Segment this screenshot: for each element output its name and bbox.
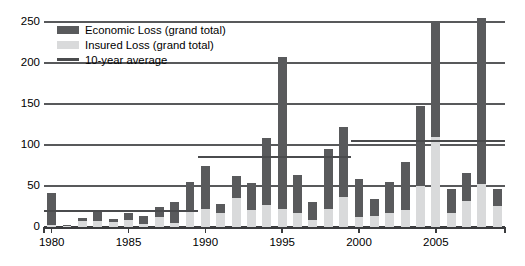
average-segment-2000-2009: [351, 140, 505, 142]
bar-insured-2002: [385, 213, 394, 227]
bar-insured-1993: [247, 210, 256, 227]
legend-swatch-insured-icon: [57, 41, 79, 49]
bar-group-2005: [431, 22, 440, 227]
legend-label-economic: Economic Loss (grand total): [85, 24, 226, 36]
x-tick-label-2000: 2000: [346, 236, 372, 248]
bar-group-2009: [493, 22, 502, 227]
x-tick-label-1980: 1980: [39, 236, 65, 248]
x-tick-label-2005: 2005: [423, 236, 449, 248]
average-segment-1980-1989: [44, 210, 198, 212]
bar-group-1995: [278, 22, 287, 227]
bar-group-2000: [355, 22, 364, 227]
x-tick-label-1985: 1985: [116, 236, 142, 248]
bar-insured-1991: [216, 213, 225, 227]
legend: Economic Loss (grand total) Insured Loss…: [57, 23, 247, 68]
bar-insured-2004: [416, 186, 425, 227]
x-axis-labels: 198019851990199520002005: [0, 236, 525, 256]
x-axis-start-cap: [43, 227, 45, 233]
bar-group-1980: [47, 22, 56, 227]
x-tick-mark-1990: [205, 227, 207, 233]
legend-item-economic-loss: Economic Loss (grand total): [57, 23, 247, 36]
x-tick-label-1990: 1990: [193, 236, 219, 248]
bar-insured-1990: [201, 209, 210, 227]
bar-insured-2007: [462, 201, 471, 227]
bar-insured-2009: [493, 206, 502, 227]
bar-insured-1994: [262, 205, 271, 227]
bar-group-2002: [385, 22, 394, 227]
legend-swatch-average-line-icon: [57, 58, 79, 61]
average-segment-1990-1999: [198, 156, 352, 158]
legend-item-insured-loss: Insured Loss (grand total): [57, 38, 247, 51]
loss-chart: 050100150200250 198019851990199520002005…: [0, 0, 525, 266]
y-axis-labels: 050100150200250: [0, 0, 40, 266]
bar-insured-1995: [278, 209, 287, 227]
bar-group-2006: [447, 22, 456, 227]
bar-insured-1999: [339, 197, 348, 227]
x-tick-mark-1995: [281, 227, 283, 233]
y-tick-label-0: 0: [34, 221, 40, 233]
x-tick-mark-2000: [358, 227, 360, 233]
x-axis-end-cap: [504, 227, 506, 233]
bar-insured-2008: [477, 184, 486, 227]
bar-group-2001: [370, 22, 379, 227]
bar-group-1997: [308, 22, 317, 227]
bar-insured-1996: [293, 213, 302, 227]
bar-group-2007: [462, 22, 471, 227]
x-tick-label-1995: 1995: [269, 236, 295, 248]
bar-insured-2003: [401, 210, 410, 227]
bar-group-1994: [262, 22, 271, 227]
bar-group-2004: [416, 22, 425, 227]
bar-group-1993: [247, 22, 256, 227]
bar-insured-1989: [186, 211, 195, 227]
x-tick-mark-2005: [435, 227, 437, 233]
bar-group-2003: [401, 22, 410, 227]
bar-group-1996: [293, 22, 302, 227]
legend-label-insured: Insured Loss (grand total): [85, 39, 214, 51]
bar-group-1998: [324, 22, 333, 227]
y-tick-label-50: 50: [27, 180, 40, 192]
bar-economic-1995: [278, 57, 287, 227]
y-tick-label-100: 100: [21, 139, 40, 151]
legend-swatch-economic-icon: [57, 26, 79, 34]
bar-insured-1987: [155, 217, 164, 227]
x-tick-mark-1985: [128, 227, 130, 233]
legend-label-average: 10-year average: [85, 54, 167, 66]
bar-insured-1998: [324, 209, 333, 227]
y-tick-label-200: 200: [21, 57, 40, 69]
bar-group-1999: [339, 22, 348, 227]
bar-insured-2000: [355, 217, 364, 227]
y-tick-label-150: 150: [21, 98, 40, 110]
legend-item-ten-year-average: 10-year average: [57, 53, 247, 66]
bar-insured-2006: [447, 213, 456, 227]
bar-insured-2001: [370, 216, 379, 227]
y-tick-label-250: 250: [21, 16, 40, 28]
bar-insured-2005: [431, 137, 440, 227]
bar-insured-1992: [232, 198, 241, 227]
x-tick-mark-1980: [51, 227, 53, 233]
bar-group-2008: [477, 22, 486, 227]
